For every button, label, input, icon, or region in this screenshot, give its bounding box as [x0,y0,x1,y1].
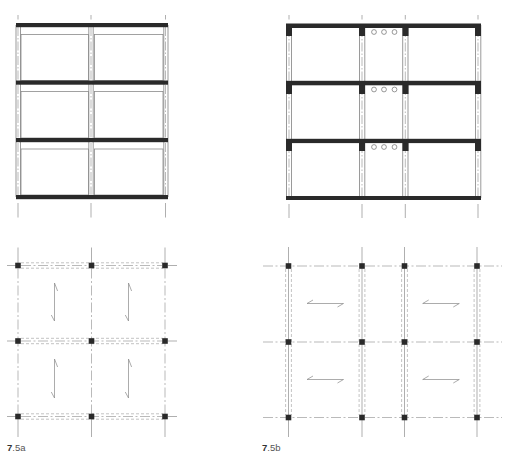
column-head [475,27,481,36]
span-direction-icon [125,283,131,321]
beam [286,81,481,86]
infill-panel [21,35,89,81]
column [89,263,95,269]
beam [16,23,168,27]
column-head [475,85,481,95]
duct-opening-icon [372,30,377,35]
span-direction-icon [51,283,57,321]
figure-label-7-5b: 7.5b [262,442,281,453]
column [286,263,292,269]
column-head [403,143,409,152]
figure-7-5a-elevation [16,15,168,218]
infill-panel [95,149,164,195]
column [89,338,95,344]
column-head [359,27,365,36]
column [402,263,408,269]
figure-7-5b-plan [263,247,502,437]
column [162,263,168,269]
column [402,415,408,421]
column [359,415,365,421]
span-direction-icon [51,359,57,398]
column [474,263,480,269]
span-direction-icon [423,300,460,307]
column-head [286,27,292,36]
column [474,415,480,421]
column [359,339,365,345]
column-head [359,85,365,95]
column-head [475,143,481,152]
figure-suffix: .5a [12,442,26,453]
beam [286,139,481,143]
beam [286,24,481,29]
duct-opening-icon [392,145,397,150]
duct-opening-icon [392,30,397,35]
structural-diagram: 7.5a 7.5b [0,0,521,461]
beam [286,196,481,200]
figure-suffix: .5b [267,442,280,453]
duct-opening-icon [382,30,387,35]
infill-panel [95,35,164,81]
beam [16,81,168,85]
column [402,339,408,345]
column [162,338,168,344]
span-direction-icon [307,376,344,383]
column-head [359,143,365,152]
infill-panel [21,149,89,195]
column [286,339,292,345]
column-head [403,27,409,36]
duct-opening-icon [372,87,377,92]
column [89,414,95,420]
column-head [286,85,292,95]
span-direction-icon [125,359,131,398]
column [162,414,168,420]
figure-label-7-5a: 7.5a [7,442,26,453]
infill-panel [21,92,89,139]
infill-panel [95,92,164,139]
column-head [403,85,409,95]
span-direction-icon [423,376,460,383]
duct-opening-icon [382,87,387,92]
duct-opening-icon [392,87,397,92]
span-direction-icon [307,300,344,307]
column [359,263,365,269]
column [286,415,292,421]
column [474,339,480,345]
beam [16,195,168,199]
column-head [286,143,292,152]
column [15,414,21,420]
column [15,338,21,344]
figure-7-5a-plan [7,248,177,438]
beam [16,138,168,142]
duct-opening-icon [372,145,377,150]
column [15,263,21,269]
figure-7-5b-elevation [286,15,481,218]
duct-opening-icon [382,145,387,150]
